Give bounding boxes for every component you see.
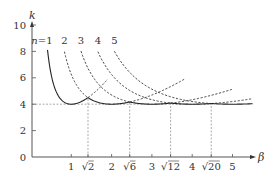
x-tick-label: 3 xyxy=(149,161,155,172)
curve-n=5-dashed-left xyxy=(114,51,211,103)
curve-label-n=1: n=1 xyxy=(31,35,52,46)
y-tick-label: 4 xyxy=(20,99,26,110)
x-axis-label: β xyxy=(257,151,264,164)
curve-n=1-solid xyxy=(48,50,88,104)
curve-n=2-dashed-left xyxy=(64,52,88,98)
curve-label-n=3: 3 xyxy=(78,35,84,46)
curve-label-n=5: 5 xyxy=(111,35,117,46)
x-tick-label: √12 xyxy=(161,161,180,172)
x-axis-arrow-icon xyxy=(250,155,256,159)
x-tick-label: 1 xyxy=(68,161,74,172)
curves xyxy=(48,50,253,104)
curve-n=3-dashed-right xyxy=(171,89,233,103)
curve-n=4-dashed-left xyxy=(98,52,171,103)
curve-n=3-dashed-left xyxy=(81,51,130,102)
reference-dashed-lines xyxy=(32,98,211,157)
curve-labels: n=12345 xyxy=(31,35,117,46)
x-tick-label: √20 xyxy=(202,161,221,172)
curve-n=4-solid xyxy=(171,103,212,104)
x-tick-label: 5 xyxy=(229,161,235,172)
y-tick-label: 0 xyxy=(20,152,26,163)
curve-n=1-dashed-right xyxy=(88,79,108,97)
x-tick-label: √2 xyxy=(82,161,95,172)
x-tick-label: √6 xyxy=(123,161,136,172)
y-axis-label: k xyxy=(29,9,36,22)
y-tick-label: 2 xyxy=(20,125,26,136)
x-tick-label: 4 xyxy=(189,161,195,172)
curve-label-n=4: 4 xyxy=(95,35,101,46)
x-tick-label: 2 xyxy=(108,161,114,172)
curve-n=2-solid xyxy=(88,98,130,105)
y-tick-label: 8 xyxy=(20,46,26,57)
curve-label-n=2: 2 xyxy=(61,35,67,46)
curve-n=4-dashed-right xyxy=(211,99,252,104)
axes: β k xyxy=(29,9,264,164)
curve-n=5-solid xyxy=(211,104,252,105)
buckling-coefficient-chart: β k 1√22√63√124√205 0246810 n=12345 xyxy=(0,0,276,184)
y-tick-label: 10 xyxy=(13,20,26,31)
y-tick-label: 6 xyxy=(20,72,26,83)
